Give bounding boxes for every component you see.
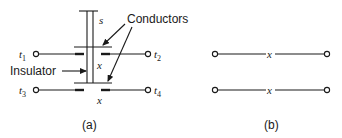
terminal-t1-label: t1 [19,48,26,63]
equivalent-line-upper: x [212,48,329,60]
panel-b-caption: (b) [264,118,279,132]
gap-x-lower-label: x [96,94,102,106]
conductors-arrow-upper [103,24,125,45]
spacing-s-label: s [99,14,103,26]
panel-b: x x (b) [212,48,329,132]
terminal-lower-left-icon [212,87,217,92]
transmission-line-diagram: t1 t2 t3 t4 s x x Conductors Insulator (… [0,0,342,138]
terminal-line-t4 [101,87,151,92]
terminal-line-t3 [33,87,84,92]
terminal-t1-icon [33,51,38,56]
equivalent-line-lower: x [212,84,329,96]
terminal-t2-label: t2 [154,48,161,63]
conductors-label: Conductors [127,12,188,26]
gap-x-upper-label: x [96,59,102,71]
panel-a: t1 t2 t3 t4 s x x Conductors Insulator (… [10,11,188,132]
gap-x-lower-mark: x [266,84,272,96]
terminal-line-t2 [101,51,151,56]
terminal-t4-icon [145,87,150,92]
terminal-t4-label: t4 [154,84,161,99]
insulator-label: Insulator [10,64,56,78]
terminal-lower-right-icon [324,87,329,92]
terminal-upper-left-icon [212,51,217,56]
terminal-t3-icon [33,87,38,92]
terminal-t2-icon [145,51,150,56]
terminal-t3-label: t3 [19,84,26,99]
terminal-upper-right-icon [324,51,329,56]
panel-a-caption: (a) [82,118,97,132]
gap-x-upper-mark: x [266,48,272,60]
terminal-line-t1 [33,51,84,56]
